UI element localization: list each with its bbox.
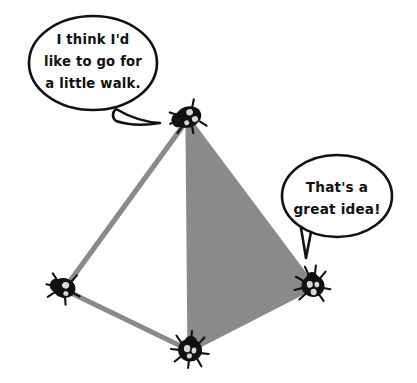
speech-bubble-top-left[interactable]: I think I'd like to go for a little walk… [29,16,160,125]
speech-bubble-right-body [282,155,392,237]
speech-bubble-top-left-line-2: like to go for [44,54,142,69]
speech-bubble-right[interactable]: That's a great idea! [282,155,392,258]
speech-bubble-top-left-line-1: I think I'd [56,32,129,47]
ladybug-left [43,270,84,308]
tetrahedron-illustration: I think I'd like to go for a little walk… [0,0,417,383]
speech-bubble-right-line-2: great idea! [293,201,380,217]
edge-top-left [65,119,188,288]
speech-bubble-top-left-tail [113,109,160,125]
speech-bubble-right-line-1: That's a [306,179,368,195]
speech-bubble-top-left-line-3: a little walk. [45,76,140,91]
illustration-canvas: I think I'd like to go for a little walk… [0,0,417,383]
tetrahedron-edges [65,119,313,350]
edge-left-bottom [65,290,189,350]
edge-top-bottom [188,119,190,350]
